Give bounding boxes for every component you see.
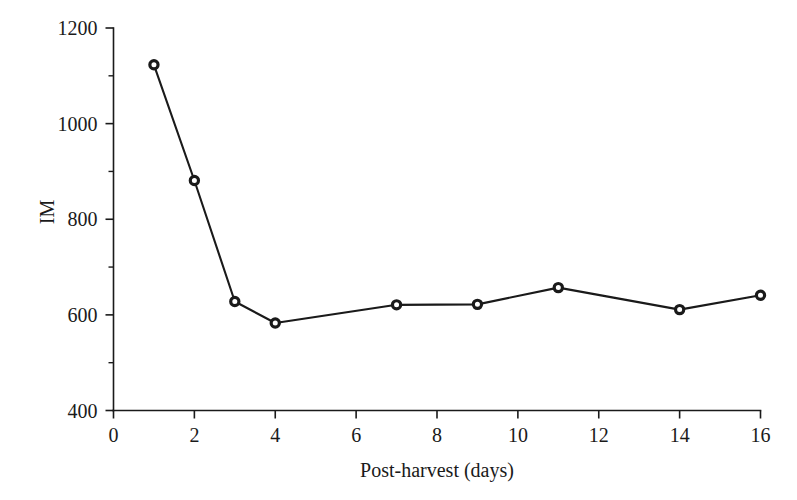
y-tick-label-600: 600 [68, 304, 98, 326]
x-tick-label-14: 14 [670, 424, 690, 446]
x-axis-tick-labels: 0246810121416 [109, 424, 771, 446]
data-point-1 [150, 61, 158, 69]
y-tick-label-800: 800 [68, 208, 98, 230]
x-tick-label-8: 8 [432, 424, 442, 446]
x-tick-label-0: 0 [109, 424, 119, 446]
data-point-16 [756, 291, 764, 299]
x-tick-label-10: 10 [508, 424, 528, 446]
y-tick-label-1200: 1200 [58, 17, 98, 39]
data-point-14 [676, 306, 684, 314]
x-axis-major-ticks [114, 411, 761, 419]
chart-figure: 40060080010001200 0246810121416 Post-har… [0, 0, 797, 500]
y-axis-major-ticks [106, 28, 114, 411]
x-tick-label-12: 12 [589, 424, 609, 446]
y-tick-label-400: 400 [68, 400, 98, 422]
data-point-7 [392, 301, 400, 309]
line-chart-svg: 40060080010001200 0246810121416 Post-har… [0, 0, 797, 500]
data-point-2 [190, 176, 198, 184]
x-tick-label-4: 4 [270, 424, 280, 446]
x-axis-title: Post-harvest (days) [360, 459, 514, 482]
x-tick-label-16: 16 [751, 424, 771, 446]
x-tick-label-6: 6 [351, 424, 361, 446]
axis-lines [113, 28, 761, 411]
y-axis-title: IM [36, 200, 58, 225]
x-tick-label-2: 2 [189, 424, 199, 446]
data-point-4 [271, 319, 279, 327]
data-point-9 [473, 300, 481, 308]
data-point-3 [231, 297, 239, 305]
data-series-line [154, 65, 761, 323]
y-axis-tick-labels: 40060080010001200 [58, 17, 98, 422]
data-series-markers [150, 61, 765, 327]
y-tick-label-1000: 1000 [58, 113, 98, 135]
data-point-11 [554, 284, 562, 292]
